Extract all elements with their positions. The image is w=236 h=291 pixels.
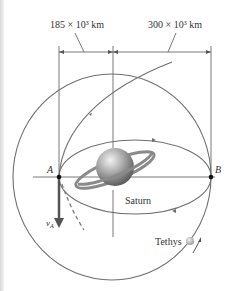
point-b-marker (209, 175, 214, 180)
point-b-label: B (215, 164, 221, 175)
velocity-label: vA (46, 218, 54, 229)
dimension-right-label: 300 × 10³ km (148, 19, 202, 30)
saturn-label: Saturn (125, 195, 151, 206)
trajectory-arrow-icon (89, 113, 92, 116)
tethys-arrowhead-icon (198, 237, 201, 242)
tethys-label: Tethys (155, 236, 182, 247)
point-a-label: A (46, 164, 54, 175)
dimension-left-label: 185 × 10³ km (50, 19, 104, 30)
dimension-lines (59, 33, 211, 177)
velocity-arrowhead-icon (54, 218, 64, 228)
orbit-diagram: 185 × 10³ km 300 × 10³ km Saturn A B vA … (0, 0, 236, 291)
saturn-planet (72, 145, 157, 195)
point-a-marker (57, 175, 62, 180)
tethys-moon (186, 237, 194, 245)
dashed-path (62, 184, 84, 230)
